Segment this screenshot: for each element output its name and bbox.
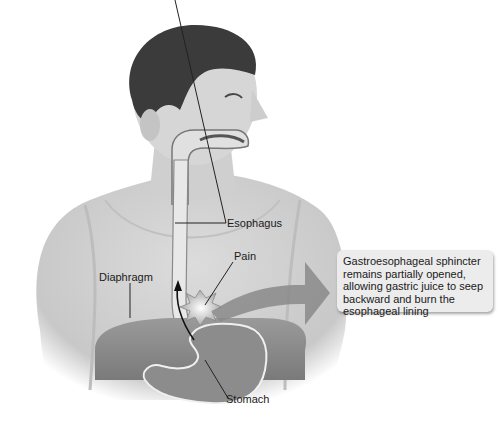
reflux-illustration: Esophagus Pain Diaphragm Stomach Gastroe…: [0, 0, 504, 422]
anatomy-drawing: [0, 0, 504, 422]
pain-label: Pain: [234, 250, 256, 262]
callout-line: backward and burn the: [343, 293, 487, 306]
esophagus-label: Esophagus: [227, 217, 282, 229]
callout-line: remains partially opened,: [343, 268, 487, 281]
diaphragm-label: Diaphragm: [99, 271, 153, 283]
callout-line: esophageal lining: [343, 305, 487, 318]
callout-line: Gastroesophageal sphincter: [343, 255, 487, 268]
sphincter-callout: Gastroesophageal sphincter remains parti…: [337, 250, 493, 312]
stomach-label: Stomach: [226, 393, 269, 405]
callout-line: allowing gastric juice to seep: [343, 280, 487, 293]
